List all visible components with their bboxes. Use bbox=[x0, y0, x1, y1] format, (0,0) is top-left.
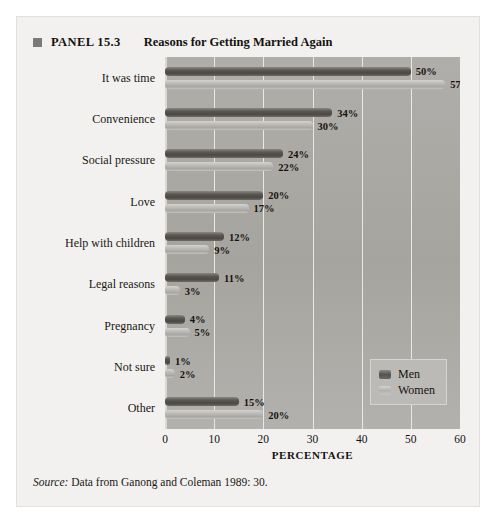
category-label: Legal reasons bbox=[89, 277, 155, 292]
bar-value-label: 15% bbox=[244, 396, 265, 407]
bar-value-label: 57% bbox=[450, 79, 460, 90]
bar-chart: It was timeConvenienceSocial pressureLov… bbox=[33, 57, 463, 452]
x-tick-label: 10 bbox=[208, 433, 220, 445]
legend-item-men: Men bbox=[379, 366, 435, 382]
legend-label-women: Women bbox=[398, 383, 435, 398]
panel-header: PANEL 15.3 Reasons for Getting Married A… bbox=[33, 35, 332, 50]
bar-value-label: 3% bbox=[185, 285, 201, 296]
bar-men bbox=[165, 149, 283, 158]
category-label: It was time bbox=[102, 70, 155, 85]
legend-swatch-women-icon bbox=[379, 386, 391, 395]
legend-swatch-men-icon bbox=[379, 370, 391, 379]
bar-value-label: 5% bbox=[195, 327, 211, 338]
bar-value-label: 50% bbox=[416, 66, 437, 77]
bar-men bbox=[165, 67, 411, 76]
bar-women bbox=[165, 286, 180, 295]
bar-women bbox=[165, 328, 190, 337]
bar-women bbox=[165, 121, 313, 130]
x-tick-label: 20 bbox=[258, 433, 270, 445]
bar-value-label: 1% bbox=[175, 355, 191, 366]
bar-value-label: 20% bbox=[268, 409, 289, 420]
category-label: Pregnancy bbox=[104, 318, 155, 333]
panel-number: PANEL 15.3 bbox=[51, 35, 121, 50]
x-tick-label: 40 bbox=[356, 433, 368, 445]
x-axis-title: PERCENTAGE bbox=[165, 449, 460, 461]
bar-value-label: 17% bbox=[254, 203, 275, 214]
value-axis: 0102030405060 bbox=[165, 429, 460, 451]
bar-value-label: 9% bbox=[214, 244, 230, 255]
bar-value-label: 4% bbox=[190, 314, 206, 325]
chart-legend: Men Women bbox=[370, 359, 447, 405]
bar-men bbox=[165, 232, 224, 241]
bar-men bbox=[165, 273, 219, 282]
source-note: Source: Data from Ganong and Coleman 198… bbox=[33, 476, 268, 488]
bar-women bbox=[165, 162, 273, 171]
bar-men bbox=[165, 108, 332, 117]
category-label: Social pressure bbox=[82, 153, 155, 168]
bar-value-label: 12% bbox=[229, 231, 250, 242]
category-label: Help with children bbox=[65, 236, 155, 251]
legend-item-women: Women bbox=[379, 382, 435, 398]
page-title: Reasons for Getting Married Again bbox=[144, 35, 333, 50]
category-label: Other bbox=[128, 401, 155, 416]
bar-value-label: 11% bbox=[224, 272, 244, 283]
bar-value-label: 2% bbox=[180, 368, 196, 379]
bar-women bbox=[165, 410, 263, 419]
source-text: Data from Ganong and Coleman 1989: 30. bbox=[71, 476, 267, 488]
bar-value-label: 24% bbox=[288, 148, 309, 159]
category-label: Convenience bbox=[92, 112, 155, 127]
x-tick-label: 50 bbox=[405, 433, 417, 445]
bar-value-label: 22% bbox=[278, 161, 299, 172]
x-tick-label: 60 bbox=[454, 433, 466, 445]
source-label: Source: bbox=[33, 476, 68, 488]
gridline bbox=[362, 57, 363, 429]
bar-value-label: 34% bbox=[337, 107, 358, 118]
bar-men bbox=[165, 356, 170, 365]
bar-men bbox=[165, 191, 263, 200]
x-tick-label: 0 bbox=[162, 433, 168, 445]
category-label: Love bbox=[130, 194, 155, 209]
bar-women bbox=[165, 369, 175, 378]
bar-women bbox=[165, 245, 209, 254]
bar-value-label: 30% bbox=[318, 120, 339, 131]
x-tick-label: 30 bbox=[307, 433, 319, 445]
bar-men bbox=[165, 315, 185, 324]
square-bullet-icon bbox=[33, 38, 42, 47]
legend-label-men: Men bbox=[398, 367, 420, 382]
bar-value-label: 20% bbox=[268, 190, 289, 201]
category-label: Not sure bbox=[114, 360, 155, 375]
bar-women bbox=[165, 204, 249, 213]
bar-men bbox=[165, 397, 239, 406]
panel-container: PANEL 15.3 Reasons for Getting Married A… bbox=[17, 17, 479, 506]
bar-women bbox=[165, 80, 445, 89]
category-axis: It was timeConvenienceSocial pressureLov… bbox=[33, 57, 161, 429]
